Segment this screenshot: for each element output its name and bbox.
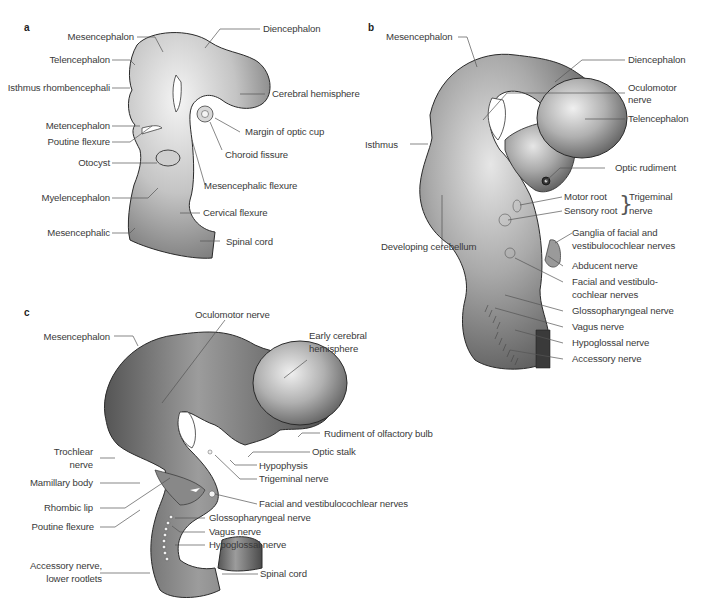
label-b-telencephalon: Telencephalon: [628, 113, 689, 124]
label-b-facial-1: Facial and vestibulo-: [572, 276, 658, 287]
panel-letter-b: b: [368, 22, 374, 33]
label-c-trochlear-1: Trochlear: [54, 446, 93, 457]
panel-letter-c: c: [24, 307, 30, 318]
label-b-ganglia-1: Ganglia of facial and: [572, 227, 657, 238]
label-b-oculomotor-2: nerve: [628, 94, 652, 105]
label-a-poutine-flexure: Poutine flexure: [48, 136, 111, 147]
label-b-optic-rudiment: Optic rudiment: [615, 162, 676, 173]
label-b-motor-root: Motor root: [564, 191, 607, 202]
label-c-spinal-cord: Spinal cord: [260, 568, 307, 579]
label-c-early-cerebral-1: Early cerebral: [309, 330, 367, 341]
label-b-sensory-root: Sensory root: [564, 205, 617, 216]
label-b-trigeminal-1: Trigeminal: [629, 191, 672, 202]
label-c-poutine-flexure: Poutine flexure: [32, 521, 95, 532]
label-a-mesencephalic: Mesencephalic: [47, 227, 110, 238]
embryonic-brain-figure: a b c Mesencephalon Telencephalon Isthmu…: [0, 0, 703, 605]
label-a-diencephalon: Diencephalon: [263, 23, 320, 34]
label-a-myelencephalon: Myelencephalon: [42, 192, 110, 203]
label-c-mesencephalon: Mesencephalon: [44, 331, 110, 342]
label-c-facial-vestibulocochlear: Facial and vestibulocochlear nerves: [259, 498, 408, 509]
panel-c-drawing: [104, 332, 347, 597]
label-c-early-cerebral-2: hemisphere: [309, 343, 358, 354]
label-a-isthmus: Isthmus rhombencephali: [8, 82, 110, 93]
label-c-oculomotor: Oculomotor nerve: [195, 309, 270, 320]
label-b-trigeminal-2: nerve: [629, 205, 653, 216]
label-c-rhombic-lip: Rhombic lip: [44, 502, 93, 513]
label-a-cervical-flexure: Cervical flexure: [203, 207, 268, 218]
label-a-metencephalon: Metencephalon: [46, 120, 110, 131]
label-c-accessory-2: lower rootlets: [46, 573, 102, 584]
label-a-otocyst: Otocyst: [78, 157, 110, 168]
label-a-margin-optic-cup: Margin of optic cup: [245, 126, 324, 137]
label-c-glossopharyngeal: Glossopharyngeal nerve: [209, 512, 311, 523]
label-b-mesencephalon: Mesencephalon: [386, 31, 452, 42]
label-a-choroid-fissure: Choroid fissure: [225, 149, 288, 160]
label-c-vagus: Vagus nerve: [209, 526, 261, 537]
label-b-vagus: Vagus nerve: [572, 321, 624, 332]
label-b-glossopharyngeal: Glossopharyngeal nerve: [572, 305, 674, 316]
label-b-ganglia-2: vestibulocochlear nerves: [572, 240, 675, 251]
label-a-spinal-cord: Spinal cord: [226, 236, 273, 247]
label-c-optic-stalk: Optic stalk: [312, 446, 356, 457]
label-b-oculomotor-1: Oculomotor: [628, 82, 677, 93]
label-a-cerebral-hemisphere: Cerebral hemisphere: [272, 88, 360, 99]
label-b-developing-cerebellum: Developing cerebellum: [381, 241, 477, 252]
label-c-hypoglossal: Hypoglossal nerve: [209, 539, 286, 550]
label-b-accessory: Accessory nerve: [572, 353, 641, 364]
label-c-trigeminal: Trigeminal nerve: [259, 473, 329, 484]
label-c-hypophysis: Hypophysis: [259, 460, 308, 471]
label-b-isthmus: Isthmus: [365, 139, 398, 150]
label-a-mesencephalon: Mesencephalon: [68, 31, 134, 42]
label-b-hypoglossal: Hypoglossal nerve: [572, 337, 649, 348]
panel-letter-a: a: [24, 22, 30, 33]
label-c-mamillary: Mamillary body: [30, 477, 93, 488]
label-b-diencephalon: Diencephalon: [628, 54, 685, 65]
label-c-rudiment-olfactory: Rudiment of olfactory bulb: [324, 428, 433, 439]
label-c-trochlear-2: nerve: [70, 459, 94, 470]
label-a-telencephalon: Telencephalon: [49, 54, 110, 65]
label-b-abducent: Abducent nerve: [572, 260, 638, 271]
panel-a-drawing: [128, 33, 270, 259]
label-a-mesencephalic-flexure: Mesencephalic flexure: [204, 180, 297, 191]
label-c-accessory-1: Accessory nerve,: [30, 560, 102, 571]
label-b-facial-2: cochlear nerves: [572, 289, 638, 300]
